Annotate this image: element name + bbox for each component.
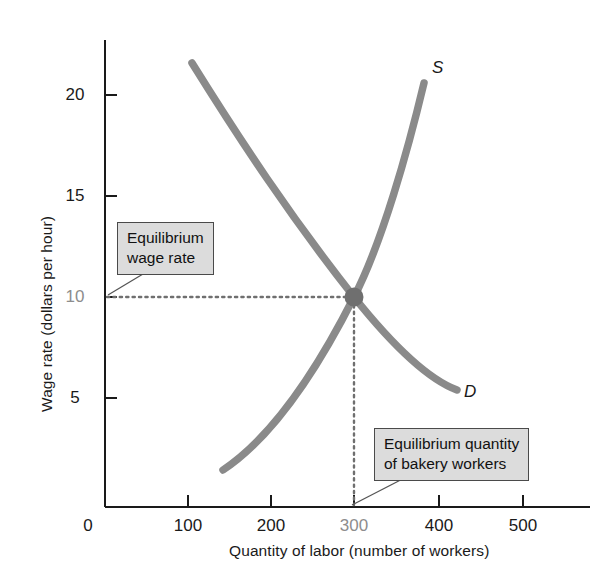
y-tick-label-5: 5	[58, 388, 92, 408]
equilibrium-quantity-callout: Equilibrium quantity of bakery workers	[374, 428, 529, 481]
x-axis-title: Quantity of labor (number of workers)	[229, 542, 489, 560]
x-tick-label-400: 400	[411, 516, 467, 536]
supply-curve-label: S	[432, 58, 443, 78]
x-tick-label-300: 300	[326, 516, 382, 536]
x-tick-label-500: 500	[495, 516, 551, 536]
y-tick-label-20: 20	[58, 85, 92, 105]
x-tick-label-0: 0	[72, 516, 104, 536]
supply-curve	[223, 83, 424, 470]
y-tick-label-15: 15	[58, 186, 92, 206]
equilibrium-wage-rate-callout: Equilibrium wage rate	[117, 222, 214, 275]
x-tick-label-100: 100	[160, 516, 216, 536]
x-tick-label-200: 200	[243, 516, 299, 536]
y-axis-title: Wage rate (dollars per hour)	[38, 216, 56, 412]
y-tick-label-10: 10	[58, 287, 92, 307]
supply-demand-chart: Wage rate (dollars per hour) Quantity of…	[0, 0, 594, 584]
demand-curve-label: D	[464, 382, 476, 402]
equilibrium-point-marker	[345, 288, 364, 307]
